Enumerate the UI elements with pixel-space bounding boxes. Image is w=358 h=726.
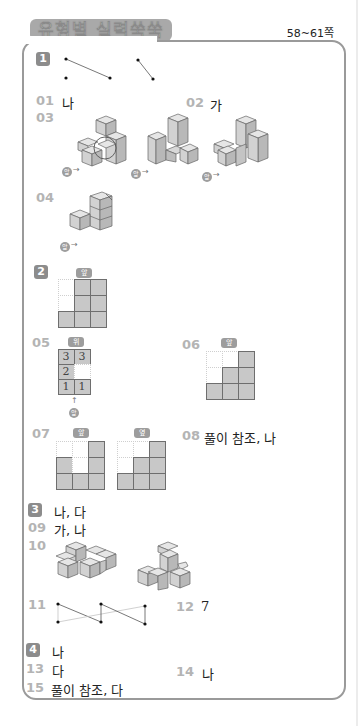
filled-cell [238, 367, 255, 384]
answer-15: 풀이 참조, 다 [51, 680, 123, 699]
filled-cell [90, 279, 107, 296]
arrow-icon: → [71, 240, 78, 249]
section-badge-4: 4 [26, 643, 40, 657]
question-number-07: 07 [32, 426, 50, 441]
number-cell: 1 [74, 379, 91, 395]
empty-cell [56, 441, 73, 458]
question-number-12: 12 [176, 599, 194, 614]
front-view-grid-sec2 [58, 279, 106, 327]
front-view-grid-06 [206, 351, 254, 399]
front-marker-03a: 앞 [62, 167, 72, 177]
filled-cell [90, 295, 107, 312]
page-range: 58~61쪽 [287, 24, 334, 40]
empty-cell [206, 351, 223, 368]
empty-cell [222, 351, 239, 368]
number-cell: 1 [58, 379, 75, 395]
filled-cell [90, 311, 107, 328]
empty-cell [72, 441, 89, 458]
cube-figure-10a [54, 540, 124, 582]
empty-cell [58, 279, 75, 296]
cube-figure-03a [72, 114, 134, 172]
front-marker-03c: 앞 [202, 172, 212, 182]
frame-gap [22, 36, 157, 44]
empty-cell [74, 364, 91, 380]
front-marker-04: 앞 [60, 242, 70, 252]
question-number-03: 03 [36, 110, 54, 125]
filled-cell [238, 383, 255, 400]
filled-cell [238, 351, 255, 368]
filled-cell [206, 383, 223, 400]
up-arrow-icon: ↑ [71, 396, 78, 405]
filled-cell [149, 473, 166, 490]
filled-cell [133, 473, 150, 490]
answer-12: 7 [201, 599, 209, 614]
filled-cell [56, 473, 73, 490]
answer-14: 나 [202, 664, 214, 683]
top-view-label: 위 [68, 337, 84, 347]
question-number-11: 11 [28, 597, 46, 612]
filled-cell [149, 441, 166, 458]
question-number-05: 05 [32, 335, 50, 350]
filled-cell [88, 457, 105, 474]
empty-cell [58, 295, 75, 312]
cube-figure-03b [142, 114, 202, 172]
section-badge-3: 3 [28, 503, 42, 517]
question-number-09: 09 [28, 520, 46, 535]
filled-cell [74, 295, 91, 312]
front-view-label: 앞 [76, 268, 92, 278]
front-marker-05: 앞 [69, 408, 79, 418]
answer-08: 풀이 참조, 나 [204, 428, 276, 447]
question-number-14: 14 [176, 664, 194, 679]
question-number-13: 13 [26, 661, 44, 676]
front-view-label-07: 앞 [73, 428, 89, 438]
question-number-04: 04 [36, 190, 54, 205]
section-badge-2: 2 [34, 265, 48, 279]
filled-cell [56, 457, 73, 474]
cube-figure-10b [136, 542, 198, 592]
filled-cell [74, 279, 91, 296]
dot-line-diagram-11 [50, 600, 160, 630]
front-view-label-06: 앞 [221, 338, 237, 348]
filled-cell [88, 441, 105, 458]
answer-01: 나 [62, 93, 74, 112]
empty-cell [206, 367, 223, 384]
number-cell: 2 [58, 364, 75, 380]
empty-cell [117, 441, 134, 458]
answer-13: 다 [52, 661, 64, 680]
question-number-01: 01 [36, 93, 54, 108]
answer-02: 가 [210, 95, 222, 114]
filled-cell [222, 367, 239, 384]
filled-cell [72, 473, 89, 490]
filled-cell [149, 457, 166, 474]
arrow-icon: → [213, 170, 220, 179]
filled-cell [58, 311, 75, 328]
dot-line-diagram-1 [60, 55, 160, 85]
side-view-grid-07 [117, 441, 165, 489]
filled-cell [222, 383, 239, 400]
front-view-grid-07 [56, 441, 104, 489]
filled-cell [88, 473, 105, 490]
filled-cell [74, 311, 91, 328]
section-3-answer: 나, 다 [54, 502, 86, 521]
number-cell: 3 [58, 349, 75, 365]
side-view-label-07: 옆 [134, 428, 150, 438]
cube-figure-03c [212, 116, 274, 174]
question-number-15: 15 [26, 680, 44, 695]
question-number-02: 02 [186, 95, 204, 110]
arrow-icon: → [142, 167, 149, 176]
arrow-icon: → [73, 165, 80, 174]
empty-cell [133, 441, 150, 458]
section-4-answer: 나 [52, 642, 64, 661]
empty-cell [72, 457, 89, 474]
question-number-06: 06 [182, 337, 200, 352]
question-number-10: 10 [28, 538, 46, 553]
top-view-number-grid: 33211 [58, 349, 90, 394]
filled-cell [117, 473, 134, 490]
filled-cell [133, 457, 150, 474]
question-number-08: 08 [182, 428, 200, 443]
section-badge-1: 1 [36, 52, 50, 66]
empty-cell [117, 457, 134, 474]
answer-09: 가, 나 [54, 520, 86, 539]
front-marker-03b: 앞 [131, 169, 141, 179]
number-cell: 3 [74, 349, 91, 365]
